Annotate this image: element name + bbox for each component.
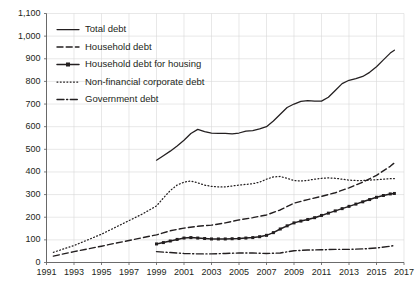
series-marker [189,236,192,239]
legend-label-household-debt-for-housing: Household debt for housing [85,59,201,69]
series-marker [389,192,392,195]
series-marker [327,212,330,215]
series-marker [306,218,309,221]
series-marker [361,200,364,203]
series-marker [162,241,165,244]
x-tick-label: 2017 [384,268,419,277]
series-line-non-financial-corporate-debt [53,176,394,252]
series-marker [251,236,254,239]
series-marker [375,196,378,199]
y-tick-label: 400 [0,167,41,176]
legend-label-government-debt: Government debt [85,94,158,104]
y-tick-label: 900 [0,54,41,63]
series-marker [155,242,158,245]
series-marker [299,220,302,223]
series-marker [279,228,282,231]
series-marker [196,237,199,240]
series-marker [368,198,371,201]
legend-label-total-debt: Total debt [85,24,126,34]
series-marker [334,209,337,212]
series-marker [313,216,316,219]
series-marker [217,237,220,240]
series-marker [272,231,275,234]
series-marker [238,237,241,240]
y-tick-label: 200 [0,213,41,222]
series-marker [393,192,396,195]
series-marker [224,237,227,240]
series-marker [210,237,213,240]
series-marker [176,238,179,241]
series-marker [354,203,357,206]
legend-swatches [57,30,79,100]
series-marker [231,237,234,240]
series-marker [382,194,385,197]
series-marker [341,207,344,210]
legend-marker [66,63,70,67]
series-marker [258,235,261,238]
series-line-government-debt [157,246,395,254]
y-tick-label: 800 [0,77,41,86]
series-marker [169,240,172,243]
y-tick-label: 100 [0,235,41,244]
series-marker [348,205,351,208]
series-marker [244,237,247,240]
legend-label-household-debt: Household debt [85,42,152,52]
y-tick-label: 300 [0,190,41,199]
series-marker [320,214,323,217]
y-tick-label: 0 [0,258,41,267]
legend-label-non-financial-corporate-debt: Non-financial corporate debt [85,77,204,87]
series-marker [265,234,268,237]
series-marker [286,224,289,227]
series-marker [293,221,296,224]
y-tick-label: 1,100 [0,9,41,18]
y-tick-label: 700 [0,100,41,109]
series-marker [203,237,206,240]
y-tick-label: 500 [0,145,41,154]
series-marker [183,237,186,240]
y-tick-label: 600 [0,122,41,131]
y-tick-label: 1,000 [0,32,41,41]
